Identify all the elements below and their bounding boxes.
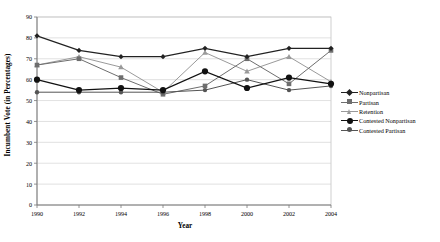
circle-filled-marker-icon	[347, 118, 353, 124]
legend-item-retention: Retention	[341, 107, 439, 116]
x-axis-tick-label: 1996	[157, 211, 169, 217]
data-point-circle-filled	[202, 68, 208, 74]
diamond-marker-icon	[346, 89, 353, 96]
legend-label: Nonpartisan	[358, 88, 389, 97]
legend-item-partisan: Partisan	[341, 97, 439, 106]
y-axis-tick-label: 80	[26, 35, 32, 41]
triangle-marker-icon	[347, 109, 351, 114]
legend-swatch-nonpartisan	[341, 88, 358, 97]
legend-label: Partisan	[358, 98, 379, 107]
y-axis-tick-label: 20	[26, 161, 32, 167]
plot-area-border	[37, 17, 331, 205]
chart-legend: Nonpartisan Partisan Retention Contested…	[341, 88, 439, 135]
y-axis-tick-label: 40	[26, 119, 32, 125]
legend-label: Contested Partisan	[358, 126, 405, 135]
legend-swatch-contested-partisan	[341, 126, 358, 135]
y-axis-tick-label: 10	[26, 182, 32, 188]
x-axis-tick-label: 1994	[115, 211, 127, 217]
x-axis-tick-label: 1990	[31, 211, 43, 217]
data-point-circle	[203, 88, 207, 92]
y-axis-tick-label: 0	[29, 202, 32, 208]
legend-item-contested-partisan: Contested Partisan	[341, 126, 439, 135]
legend-swatch-retention	[341, 107, 358, 116]
legend-item-nonpartisan: Nonpartisan	[341, 88, 439, 97]
data-point-circle	[287, 88, 291, 92]
x-axis-title: Year	[40, 222, 330, 230]
data-point-circle	[245, 77, 249, 81]
legend-item-contested-nonpartisan: Contested Nonpartisan	[341, 116, 439, 125]
data-point-circle-filled	[286, 74, 292, 80]
chart-figure: Incumbent Vote (in Percentages) 01020304…	[0, 0, 440, 242]
data-point-circle-filled	[160, 87, 166, 93]
circle-marker-icon	[347, 127, 352, 132]
legend-label: Retention	[358, 107, 383, 116]
x-axis-tick-label: 2004	[325, 211, 337, 217]
y-axis-tick-label: 70	[26, 56, 32, 62]
x-axis-tick-label: 2000	[241, 211, 253, 217]
data-point-circle-filled	[34, 77, 40, 83]
legend-swatch-partisan	[341, 98, 358, 107]
data-point-circle	[35, 90, 39, 94]
legend-label: Contested Nonpartisan	[358, 116, 416, 125]
data-point-square	[119, 75, 124, 80]
x-axis-title-text: Year	[178, 222, 192, 230]
data-point-circle-filled	[76, 87, 82, 93]
data-point-square	[287, 82, 292, 87]
y-axis-tick-label: 60	[26, 77, 32, 83]
data-point-square	[35, 63, 40, 68]
data-point-circle-filled	[328, 81, 334, 87]
y-axis-tick-label: 90	[26, 14, 32, 20]
data-point-circle-filled	[244, 85, 250, 91]
data-point-square	[203, 84, 208, 89]
x-axis-tick-label: 1998	[199, 211, 211, 217]
data-point-circle-filled	[118, 85, 124, 91]
legend-swatch-contested-nonpartisan	[341, 116, 358, 125]
square-marker-icon	[347, 99, 352, 104]
y-axis-tick-label: 30	[26, 140, 32, 146]
data-point-square	[77, 56, 82, 61]
x-axis-tick-label: 2002	[283, 211, 295, 217]
x-axis-tick-label: 1992	[73, 211, 85, 217]
y-axis-tick-label: 50	[26, 98, 32, 104]
